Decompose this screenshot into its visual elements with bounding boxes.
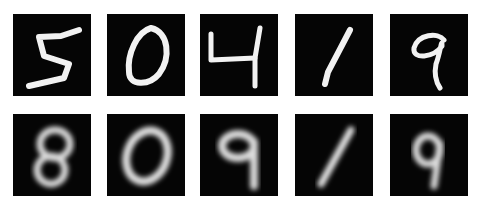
original-digit-9 — [390, 14, 468, 96]
reconstructed-digit-0 — [107, 114, 185, 196]
original-digit-0 — [107, 14, 185, 96]
original-digit-4 — [200, 14, 278, 96]
reconstructed-digit-8 — [13, 114, 91, 196]
original-digit-5 — [13, 14, 91, 96]
original-digit-1 — [295, 14, 373, 96]
reconstructed-digit-9 — [390, 114, 468, 196]
reconstructed-digit-1 — [295, 114, 373, 196]
reconstructed-digit-9 — [200, 114, 278, 196]
